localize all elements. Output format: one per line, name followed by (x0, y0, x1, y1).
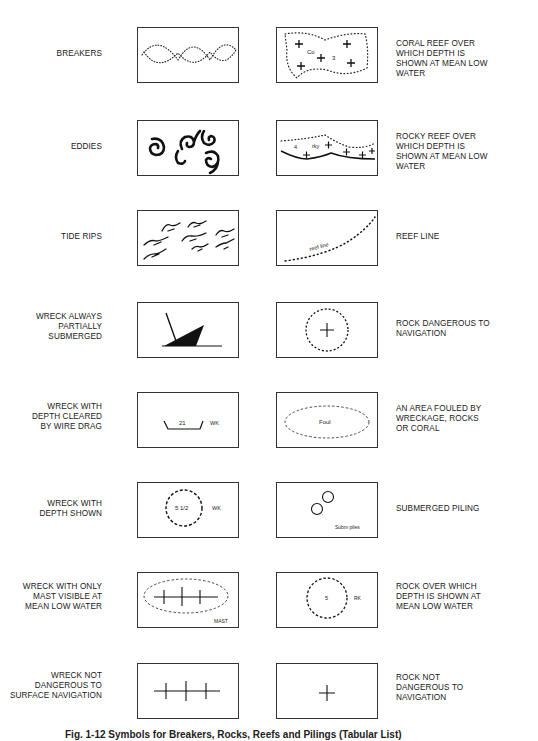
wreck-depth-value: 5 1/2 (175, 505, 189, 511)
wreck-abbrev: WK (212, 505, 221, 511)
foul-area-box: Foul (276, 392, 378, 448)
label-wreck-partially-submerged: WRECK ALWAYS PARTIALLY SUBMERGED (0, 312, 102, 342)
label-line: DEPTH CLEARED (0, 412, 102, 422)
label-line: BY WIRE DRAG (0, 422, 102, 432)
label-reef-line: REEF LINE (396, 232, 531, 242)
wreck-depth-shown-box: 5 1/2 WK (137, 482, 239, 538)
wreck-mast-visible-symbol: MAST (138, 573, 238, 627)
label-line: WRECK WITH ONLY (0, 582, 102, 592)
label-tide-rips: TIDE RIPS (0, 232, 102, 242)
label-line: CORAL REEF OVER (396, 39, 531, 49)
tide-rips-symbol (138, 211, 238, 265)
legend-row-not-dangerous: WRECK NOT DANGEROUS TO SURFACE NAVIGATIO… (0, 663, 538, 723)
legend-row-wreck-depth-piling: WRECK WITH DEPTH SHOWN 5 1/2 WK Subm pil… (0, 482, 538, 542)
label-line: WRECK NOT (0, 671, 102, 681)
label-line: ROCK NOT (396, 673, 531, 683)
legend-row-mast-rock-depth: WRECK WITH ONLY MAST VISIBLE AT MEAN LOW… (0, 572, 538, 632)
label-line: WRECK WITH (0, 402, 102, 412)
coral-reef-symbol-box: Co 3 (276, 27, 378, 83)
rock-dangerous-symbol (277, 303, 377, 357)
label-rock-not-dangerous: ROCK NOT DANGEROUS TO NAVIGATION (396, 673, 531, 703)
label-line: DANGEROUS TO (396, 683, 531, 693)
label-rocky-reef: ROCKY REEF OVER WHICH DEPTH IS SHOWN AT … (396, 132, 531, 172)
label-line: SHOWN AT MEAN LOW (396, 59, 531, 69)
submerged-piling-symbol: Subm piles (277, 483, 377, 537)
label-text: TIDE RIPS (61, 232, 102, 241)
rocky-reef-symbol: 4 rky (277, 121, 377, 175)
piling-label: Subm piles (335, 524, 360, 530)
submerged-piling-box: Subm piles (276, 482, 378, 538)
label-rock-dangerous: ROCK DANGEROUS TO NAVIGATION (396, 319, 531, 339)
rock-depth-shown-symbol: 5 RK (277, 573, 377, 627)
label-rock-depth-shown: ROCK OVER WHICH DEPTH IS SHOWN AT MEAN L… (396, 582, 531, 612)
label-line: AN AREA FOULED BY (396, 404, 531, 414)
rocky-reef-symbol-box: 4 rky (276, 120, 378, 176)
label-line: SUBMERGED (0, 332, 102, 342)
label-foul-area: AN AREA FOULED BY WRECKAGE, ROCKS OR COR… (396, 404, 531, 434)
wreck-mast-visible-box: MAST (137, 572, 239, 628)
label-line: MEAN LOW WATER (0, 602, 102, 612)
label-text: BREAKERS (57, 49, 102, 58)
label-line: DEPTH IS SHOWN AT (396, 592, 531, 602)
rocky-depth: 4 (294, 144, 297, 150)
wreck-partially-submerged-box (137, 302, 239, 358)
rock-not-dangerous-box (276, 663, 378, 719)
wreck-wire-drag-symbol: 21 WK (138, 393, 238, 447)
reef-line-symbol-box: reef line (276, 210, 378, 266)
label-line: DANGEROUS TO (0, 681, 102, 691)
label-line: ROCK OVER WHICH (396, 582, 531, 592)
breakers-symbol (138, 28, 238, 82)
label-line: WRECK WITH (0, 499, 102, 509)
eddies-symbol (138, 121, 238, 175)
label-wreck-wire-drag: WRECK WITH DEPTH CLEARED BY WIRE DRAG (0, 402, 102, 432)
label-text: EDDIES (71, 142, 102, 151)
label-line: WRECKAGE, ROCKS (396, 414, 531, 424)
wire-drag-depth: 21 (179, 420, 186, 426)
label-submerged-piling: SUBMERGED PILING (396, 504, 531, 514)
coral-depth: 3 (332, 55, 336, 61)
label-line: NAVIGATION (396, 693, 531, 703)
label-line: SUBMERGED PILING (396, 504, 531, 514)
label-line: WHICH DEPTH IS (396, 142, 531, 152)
wreck-depth-shown-symbol: 5 1/2 WK (138, 483, 238, 537)
rock-dangerous-box (276, 302, 378, 358)
label-line: DEPTH SHOWN (0, 509, 102, 519)
label-line: WATER (396, 69, 531, 79)
wreck-not-dangerous-symbol (138, 664, 238, 718)
rocky-label: rky (312, 143, 320, 149)
rock-not-dangerous-symbol (277, 664, 377, 718)
label-line: MAST VISIBLE AT (0, 592, 102, 602)
reef-line-symbol: reef line (277, 211, 377, 265)
label-line: NAVIGATION (396, 329, 531, 339)
foul-label: Foul (319, 419, 331, 425)
coral-reef-symbol: Co 3 (277, 28, 377, 82)
wreck-partially-submerged-symbol (138, 303, 238, 357)
wreck-not-dangerous-box (137, 663, 239, 719)
wreck-abbrev: WK (210, 420, 219, 426)
legend-row-wreck-partial-rock-dangerous: WRECK ALWAYS PARTIALLY SUBMERGED ROCK DA… (0, 302, 538, 362)
reef-line-text: reef line (309, 241, 329, 252)
label-wreck-mast-visible: WRECK WITH ONLY MAST VISIBLE AT MEAN LOW… (0, 582, 102, 612)
label-line: WATER (396, 162, 531, 172)
mast-label: MAST (214, 618, 228, 624)
label-breakers: BREAKERS (0, 49, 102, 59)
label-line: WHICH DEPTH IS (396, 49, 531, 59)
label-line: SHOWN AT MEAN LOW (396, 152, 531, 162)
label-line: REEF LINE (396, 232, 531, 242)
eddies-symbol-box (137, 120, 239, 176)
label-line: PARTIALLY (0, 322, 102, 332)
rock-depth-shown-box: 5 RK (276, 572, 378, 628)
coral-label: Co (307, 49, 315, 55)
label-wreck-not-dangerous: WRECK NOT DANGEROUS TO SURFACE NAVIGATIO… (0, 671, 102, 701)
label-coral-reef: CORAL REEF OVER WHICH DEPTH IS SHOWN AT … (396, 39, 531, 79)
label-line: SURFACE NAVIGATION (0, 691, 102, 701)
legend-row-breakers-coral: BREAKERS Co 3 CORAL REEF OVER WHICH DEPT… (0, 27, 538, 87)
legend-row-wire-drag-foul: WRECK WITH DEPTH CLEARED BY WIRE DRAG 21… (0, 392, 538, 452)
legend-row-eddies-rocky-reef: EDDIES 4 rky R (0, 120, 538, 180)
rock-depth-value: 5 (325, 595, 328, 601)
label-line: WRECK ALWAYS (0, 312, 102, 322)
label-wreck-depth-shown: WRECK WITH DEPTH SHOWN (0, 499, 102, 519)
breakers-symbol-box (137, 27, 239, 83)
foul-area-symbol: Foul (277, 393, 377, 447)
figure-caption: Fig. 1-12 Symbols for Breakers, Rocks, R… (65, 729, 402, 740)
